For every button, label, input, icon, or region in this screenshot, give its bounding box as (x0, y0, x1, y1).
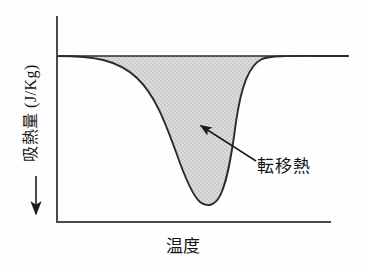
dsc-thermogram-figure: 吸熱量 (J/Kg) 温度 転移熱 (0, 0, 366, 269)
y-axis-label-container: 吸熱量 (J/Kg) (19, 38, 43, 188)
annotation-transition-heat: 転移熱 (257, 152, 311, 177)
x-axis-label: 温度 (0, 232, 366, 257)
y-axis-label: 吸熱量 (J/Kg) (23, 64, 39, 162)
transition-heat-shaded-area (57, 56, 348, 205)
chart-canvas (0, 0, 366, 269)
